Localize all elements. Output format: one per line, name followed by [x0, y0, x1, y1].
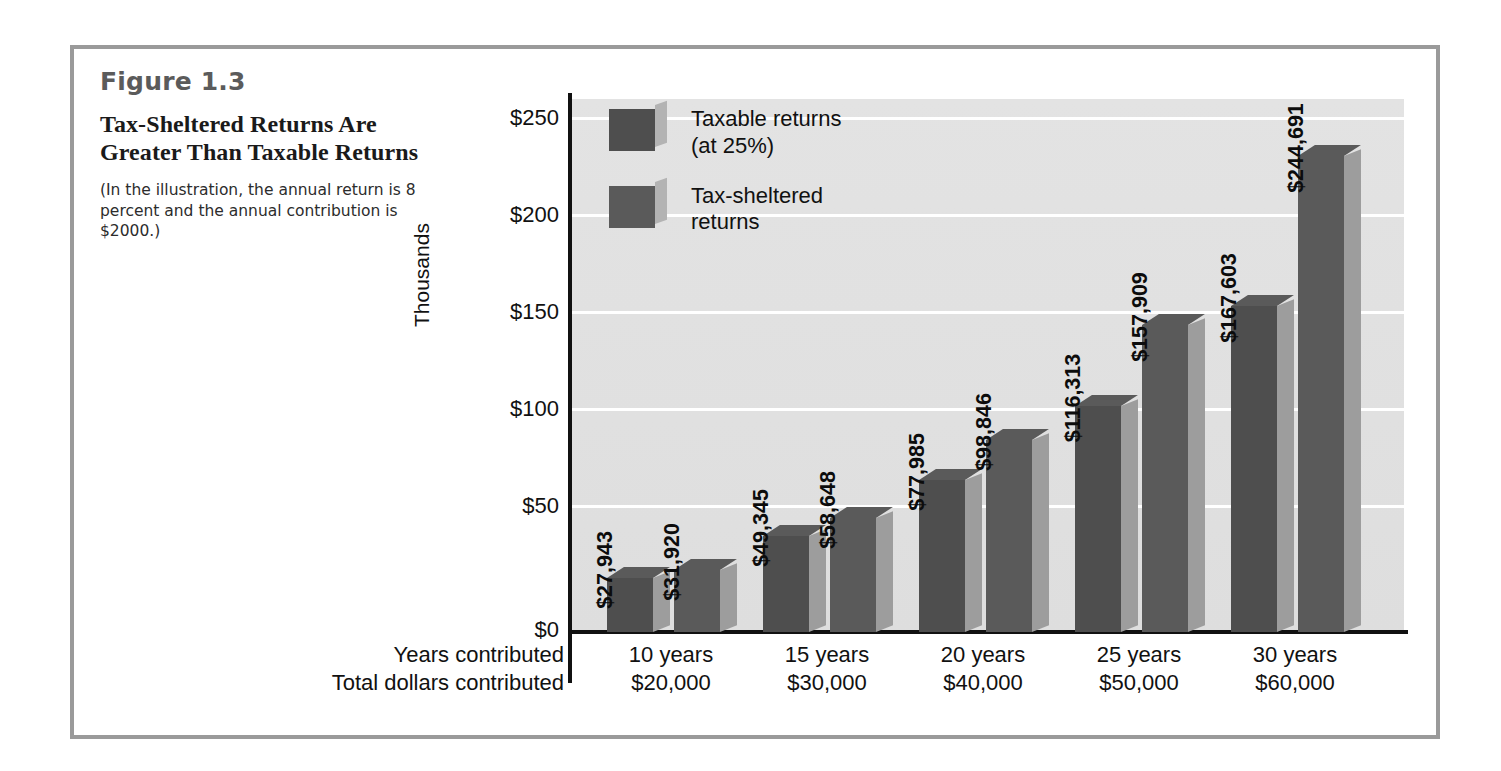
- y-tick-150: $150: [510, 299, 559, 325]
- bar-taxable-15y: $49,345: [763, 536, 809, 632]
- x-group-dollars: $50,000: [1059, 669, 1219, 697]
- bar-sheltered-30y: $244,691: [1298, 156, 1344, 632]
- y-tick-100: $100: [510, 396, 559, 422]
- bar-side-face: [1277, 299, 1294, 632]
- x-group-dollars: $20,000: [591, 669, 751, 697]
- bar-side-face: [1188, 318, 1205, 632]
- figure-frame: Figure 1.3 Tax-Sheltered Returns Are Gre…: [70, 45, 1440, 739]
- bar-value-label: $116,313: [1073, 354, 1098, 443]
- x-group-10y: 10 years $20,000: [591, 641, 751, 697]
- y-tick-200: $200: [510, 202, 559, 228]
- y-axis-line: [568, 93, 572, 683]
- bar-side-face: [1121, 399, 1138, 632]
- bar-value-label: $244,691: [1296, 103, 1321, 193]
- legend-item-taxable[interactable]: Taxable returns (at 25%): [609, 105, 841, 160]
- bar-taxable-25y: $116,313: [1075, 406, 1121, 632]
- swatch-face: [609, 109, 655, 151]
- bar-value-label: $27,943: [605, 531, 630, 609]
- bar-value-label: $167,603: [1229, 253, 1254, 343]
- x-group-years: 25 years: [1059, 641, 1219, 669]
- bar-sheltered-10y: $31,920: [674, 570, 720, 632]
- y-axis-ticks: $250 $200 $150 $100 $50 $0: [434, 49, 559, 743]
- x-group-20y: 20 years $40,000: [903, 641, 1063, 697]
- y-tick-50: $50: [522, 493, 559, 519]
- bar-value-label: $58,648: [828, 471, 853, 549]
- swatch-face: [609, 186, 655, 228]
- x-axis-row-headers: Years contributed Total dollars contribu…: [194, 641, 564, 697]
- bar-value-label: $157,909: [1140, 272, 1165, 362]
- x-group-dollars: $60,000: [1215, 669, 1375, 697]
- x-group-years: 20 years: [903, 641, 1063, 669]
- bar-value-label: $77,985: [917, 433, 942, 511]
- bar-value-label: $49,345: [761, 489, 786, 567]
- x-row-header-years: Years contributed: [194, 641, 564, 669]
- legend-swatch-sheltered-icon: [609, 182, 671, 228]
- legend-label-sheltered: Tax-sheltered returns: [691, 182, 823, 237]
- chart-legend: Taxable returns (at 25%) Tax-sheltered r…: [609, 105, 841, 258]
- x-group-15y: 15 years $30,000: [747, 641, 907, 697]
- bar-side-face: [1032, 433, 1049, 632]
- y-axis-title: Thousands: [410, 223, 434, 327]
- bar-value-label: $98,846: [984, 393, 1009, 471]
- y-tick-250: $250: [510, 105, 559, 131]
- legend-label-taxable: Taxable returns (at 25%): [691, 105, 841, 160]
- bar-side-face: [876, 511, 893, 632]
- x-group-years: 15 years: [747, 641, 907, 669]
- x-row-header-dollars: Total dollars contributed: [194, 669, 564, 697]
- y-tick-0: $0: [535, 617, 559, 643]
- x-group-dollars: $40,000: [903, 669, 1063, 697]
- x-group-25y: 25 years $50,000: [1059, 641, 1219, 697]
- bar-sheltered-20y: $98,846: [986, 440, 1032, 632]
- bar-sheltered-15y: $58,648: [830, 518, 876, 632]
- x-group-years: 10 years: [591, 641, 751, 669]
- swatch-side: [655, 101, 667, 147]
- bar-taxable-20y: $77,985: [919, 480, 965, 632]
- bar-side-face: [1344, 149, 1361, 632]
- legend-item-sheltered[interactable]: Tax-sheltered returns: [609, 182, 841, 237]
- bar-side-face: [965, 473, 982, 632]
- swatch-side: [655, 177, 667, 223]
- x-axis-labels: 10 years $20,000 15 years $30,000 20 yea…: [571, 641, 1411, 721]
- bar-taxable-10y: $27,943: [607, 578, 653, 632]
- bar-side-face: [720, 563, 737, 632]
- bar-value-label: $31,920: [672, 523, 697, 601]
- bar-chart: $27,943 $31,920 $49,345 $58,648: [74, 49, 1444, 743]
- legend-swatch-taxable-icon: [609, 105, 671, 151]
- x-group-dollars: $30,000: [747, 669, 907, 697]
- x-group-years: 30 years: [1215, 641, 1375, 669]
- bar-taxable-30y: $167,603: [1231, 306, 1277, 632]
- x-group-30y: 30 years $60,000: [1215, 641, 1375, 697]
- bar-sheltered-25y: $157,909: [1142, 325, 1188, 632]
